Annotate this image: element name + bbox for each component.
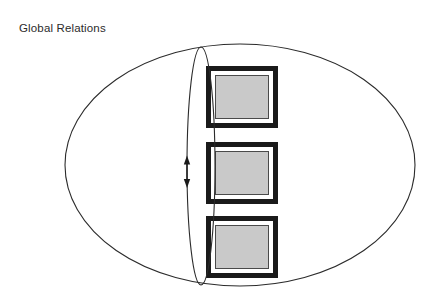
framed-node-2[interactable] — [209, 145, 276, 202]
global-relations-diagram — [0, 0, 434, 301]
node-3-inner-fill — [216, 226, 269, 269]
framed-node-group — [209, 69, 276, 276]
framed-node-3[interactable] — [209, 219, 276, 276]
arrow-head-up — [184, 156, 190, 165]
diagram-canvas: Global Relations — [0, 0, 434, 301]
bidirectional-relation-arrow — [184, 156, 190, 189]
arrow-head-down — [184, 179, 190, 188]
framed-node-1[interactable] — [209, 69, 276, 126]
node-1-inner-fill — [216, 76, 269, 119]
node-2-inner-fill — [216, 152, 269, 195]
